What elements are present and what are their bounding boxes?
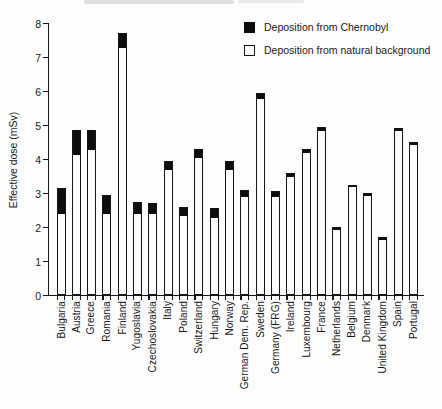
legend-label-chernobyl: Deposition from Chernobyl [264, 21, 388, 33]
x-axis-tick [80, 296, 81, 300]
chernobyl-segment [149, 204, 156, 214]
y-axis-tick [43, 125, 48, 126]
country-label: Poland [179, 301, 189, 333]
x-axis-tick [363, 296, 364, 300]
x-axis-tick [302, 296, 303, 300]
plot-area: 012345678BulgariaAustriaGreeceRomaniaFin… [0, 0, 442, 409]
y-axis-tick [43, 91, 48, 92]
bar-switzerland [194, 149, 203, 295]
chart-figure: 012345678BulgariaAustriaGreeceRomaniaFin… [0, 0, 442, 409]
x-axis-tick [118, 296, 119, 300]
x-axis-tick [141, 296, 142, 300]
chernobyl-segment [379, 238, 386, 240]
y-axis-tick [43, 227, 48, 228]
country-label: Norway [225, 301, 235, 336]
country-label: Romania [102, 301, 112, 342]
x-axis-tick [240, 296, 241, 300]
country-label: Greece [87, 301, 97, 334]
x-axis-tick [279, 296, 280, 300]
x-axis-tick [356, 296, 357, 300]
bar-yugoslavia [133, 202, 142, 296]
x-axis-tick [179, 296, 180, 300]
y-tick-label: 5 [25, 120, 41, 132]
country-label: Austria [71, 301, 81, 333]
chernobyl-segment [303, 150, 310, 153]
x-axis-tick [148, 296, 149, 300]
country-label: Czechoslovakia [148, 301, 158, 372]
country-label: United Kingdom [378, 301, 388, 374]
bar-netherlands [332, 227, 341, 295]
country-label: Netherlands [332, 301, 342, 356]
x-axis-tick [57, 296, 58, 300]
country-label: France [317, 301, 327, 333]
country-label: German Dem. Rep. [240, 301, 250, 389]
chernobyl-segment [134, 203, 141, 215]
x-axis-tick [126, 296, 127, 300]
x-axis-tick [156, 296, 157, 300]
bar-france [317, 127, 326, 295]
x-axis-tick [72, 296, 73, 300]
y-axis-label: Effective dose (mSv) [8, 112, 19, 209]
x-axis-tick [218, 296, 219, 300]
bar-luxembourg [302, 149, 311, 295]
x-axis-tick [271, 296, 272, 300]
y-tick-label: 8 [25, 18, 41, 30]
x-axis-tick [210, 296, 211, 300]
y-axis-tick [43, 193, 48, 194]
country-label: Sweden [255, 301, 265, 338]
x-axis-tick [256, 296, 257, 300]
bar-romania [102, 195, 111, 295]
y-tick-label: 6 [25, 86, 41, 98]
chernobyl-segment [119, 34, 126, 48]
x-axis-tick [378, 296, 379, 300]
chernobyl-segment [180, 208, 187, 217]
bar-italy [164, 161, 173, 295]
bar-finland [118, 33, 127, 295]
bar-spain [394, 128, 403, 295]
legend-label-natural: Deposition from natural background [264, 44, 430, 56]
chernobyl-segment [410, 143, 417, 145]
country-label: Hungary [209, 301, 219, 340]
y-axis-tick [43, 261, 48, 262]
chernobyl-segment [195, 150, 202, 159]
x-axis-tick [317, 296, 318, 300]
bar-poland [179, 207, 188, 295]
chernobyl-segment [73, 131, 80, 155]
natural-background-swatch-icon [244, 45, 255, 56]
x-axis-tick [133, 296, 134, 300]
legend-item-chernobyl: Deposition from Chernobyl [244, 21, 388, 33]
x-axis-tick [371, 296, 372, 300]
country-label: Italy [163, 301, 173, 320]
bar-portugal [409, 142, 418, 295]
bar-belgium [348, 185, 357, 296]
chernobyl-segment [364, 194, 371, 196]
y-axis-tick [43, 295, 48, 296]
y-tick-label: 7 [25, 52, 41, 64]
chernobyl-segment [88, 131, 95, 150]
bar-norway [225, 161, 234, 295]
country-label: Denmark [363, 301, 373, 342]
x-axis-tick [194, 296, 195, 300]
x-axis-tick [102, 296, 103, 300]
x-axis-tick [248, 296, 249, 300]
x-axis-tick [310, 296, 311, 300]
x-axis-tick [202, 296, 203, 300]
x-axis-tick [294, 296, 295, 300]
bar-denmark [363, 193, 372, 295]
country-label: Finland [117, 301, 127, 335]
x-axis-tick [325, 296, 326, 300]
chernobyl-segment [226, 162, 233, 171]
x-axis-tick [164, 296, 165, 300]
x-axis-tick [264, 296, 265, 300]
bar-united-kingdom [378, 237, 387, 295]
x-axis-tick [402, 296, 403, 300]
country-label: Portugal [409, 301, 419, 339]
x-axis-tick [348, 296, 349, 300]
country-label: Ireland [286, 301, 296, 332]
chernobyl-segment [211, 209, 218, 218]
x-axis-tick [187, 296, 188, 300]
x-axis-tick [95, 296, 96, 300]
x-axis-tick [394, 296, 395, 300]
chernobyl-segment [165, 162, 172, 171]
bar-greece [87, 130, 96, 295]
